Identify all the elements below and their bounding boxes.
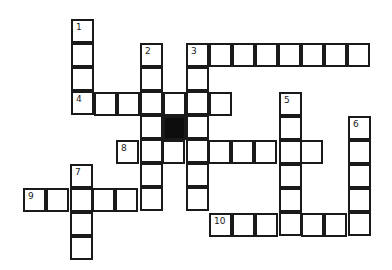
- crossword-cell[interactable]: [279, 164, 302, 188]
- crossword-cell[interactable]: [140, 91, 163, 115]
- crossword-cell[interactable]: [279, 188, 302, 212]
- crossword-cell[interactable]: [255, 43, 278, 67]
- crossword-cell[interactable]: 7: [70, 164, 93, 188]
- crossword-cell[interactable]: [71, 43, 94, 67]
- crossword-cell[interactable]: [115, 188, 138, 212]
- crossword-cell[interactable]: [186, 67, 209, 91]
- crossword-grid: 14235678910: [0, 0, 392, 270]
- clue-number: 2: [145, 46, 151, 56]
- crossword-cell[interactable]: [186, 163, 209, 187]
- crossword-cell[interactable]: [348, 188, 371, 212]
- clue-number: 9: [28, 191, 34, 201]
- crossword-cell[interactable]: 2: [140, 43, 163, 67]
- clue-number: 10: [214, 216, 225, 226]
- clue-number: 1: [76, 22, 82, 32]
- crossword-cell[interactable]: [163, 92, 186, 116]
- crossword-cell[interactable]: [46, 188, 69, 212]
- crossword-cell[interactable]: [347, 43, 370, 67]
- crossword-cell[interactable]: [186, 139, 209, 163]
- crossword-cell[interactable]: [92, 188, 115, 212]
- crossword-cell[interactable]: [140, 67, 163, 91]
- crossword-cell[interactable]: [209, 43, 232, 67]
- crossword-cell[interactable]: 9: [23, 188, 46, 212]
- crossword-cell[interactable]: [209, 92, 232, 116]
- clue-number: 5: [284, 95, 290, 105]
- clue-number: 4: [76, 94, 82, 104]
- crossword-cell[interactable]: [186, 91, 209, 115]
- crossword-cell[interactable]: [186, 115, 209, 139]
- crossword-cell[interactable]: [324, 43, 347, 67]
- clue-number: 8: [121, 143, 127, 153]
- crossword-cell[interactable]: [348, 140, 371, 164]
- crossword-cell[interactable]: [300, 140, 323, 164]
- crossword-cell[interactable]: 4: [71, 91, 94, 115]
- crossword-cell[interactable]: [70, 212, 93, 236]
- crossword-cell[interactable]: [162, 140, 185, 164]
- crossword-cell[interactable]: [232, 43, 255, 67]
- crossword-cell[interactable]: [301, 43, 324, 67]
- crossword-cell[interactable]: [70, 188, 93, 212]
- crossword-cell[interactable]: 5: [279, 92, 302, 116]
- crossword-cell[interactable]: 8: [116, 140, 139, 164]
- crossword-cell[interactable]: [348, 164, 371, 188]
- crossword-cell[interactable]: [140, 187, 163, 211]
- crossword-cell[interactable]: [231, 140, 254, 164]
- crossword-cell[interactable]: [140, 163, 163, 187]
- crossword-cell[interactable]: [232, 213, 255, 237]
- crossword-cell[interactable]: [278, 43, 301, 67]
- clue-number: 6: [353, 119, 359, 129]
- crossword-cell[interactable]: [117, 92, 140, 116]
- crossword-cell[interactable]: [255, 213, 278, 237]
- crossword-cell[interactable]: 10: [209, 213, 232, 237]
- crossword-cell[interactable]: 1: [71, 19, 94, 43]
- crossword-cell[interactable]: [140, 115, 163, 139]
- clue-number: 7: [75, 167, 81, 177]
- crossword-cell[interactable]: 6: [348, 116, 371, 140]
- crossword-cell[interactable]: [324, 213, 347, 237]
- crossword-cell[interactable]: [254, 140, 277, 164]
- black-cell: [163, 116, 186, 140]
- crossword-cell[interactable]: [140, 139, 163, 163]
- crossword-cell[interactable]: [94, 92, 117, 116]
- crossword-cell[interactable]: [186, 187, 209, 211]
- crossword-cell[interactable]: 3: [186, 43, 209, 67]
- crossword-cell[interactable]: [279, 116, 302, 140]
- crossword-cell[interactable]: [279, 212, 302, 236]
- clue-number: 3: [191, 46, 197, 56]
- crossword-cell[interactable]: [208, 140, 231, 164]
- crossword-cell[interactable]: [301, 213, 324, 237]
- crossword-cell[interactable]: [71, 67, 94, 91]
- crossword-cell[interactable]: [70, 236, 93, 260]
- crossword-cell[interactable]: [348, 212, 371, 236]
- crossword-cell[interactable]: [279, 140, 302, 164]
